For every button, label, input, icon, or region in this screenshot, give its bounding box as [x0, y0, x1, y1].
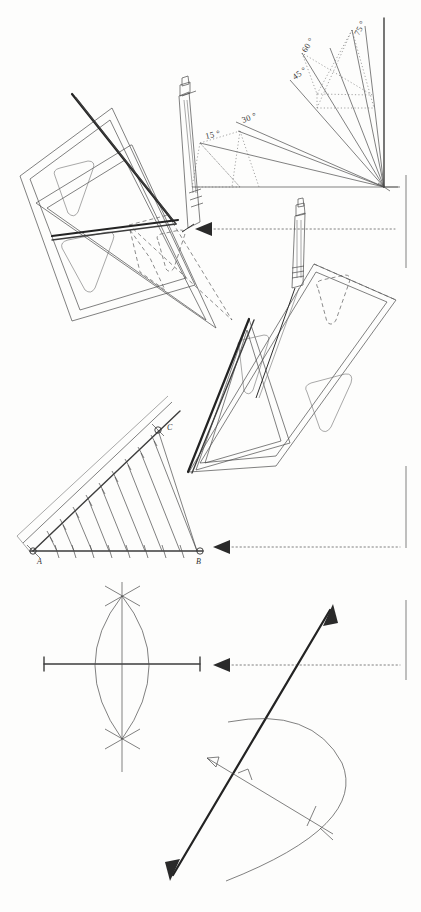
ruler-left-bracket: [17, 536, 31, 553]
arc-right: [122, 596, 149, 739]
setsquare-mid-a-inner: [205, 330, 281, 463]
setsquare-ghost-dashed: [129, 215, 232, 320]
arc-left: [95, 596, 122, 739]
label-point-A: A: [36, 557, 42, 566]
drawn-line-top-1b: [76, 98, 176, 224]
setsquare-mid-b-cutout-dashed: [317, 275, 350, 324]
pencil-top: [179, 76, 203, 232]
set-squares-panel-middle: [188, 198, 396, 473]
equal-division-panel: A B C: [17, 396, 203, 566]
fan-ray-60: [302, 53, 384, 187]
drawn-line-mid-1: [188, 319, 249, 472]
pointer-arrow-2: [213, 540, 400, 554]
pointer-arrow-3: [213, 658, 400, 672]
pencil-middle: [256, 198, 305, 398]
fan-ray-15b: [238, 131, 384, 187]
perpendicular-through-point-panel: [165, 604, 346, 881]
angle-label-30: 30 °: [240, 110, 258, 125]
setsquare-lower-outline: [36, 145, 216, 328]
fan-ray-15: [200, 143, 384, 187]
oblique-main-line: [173, 610, 330, 875]
ruler-edge-upper: [17, 396, 168, 536]
technical-drawing-canvas: 15 ° 30 ° 45 ° 60 ° 75 °: [0, 0, 421, 912]
angle-label-45: 45 °: [290, 65, 308, 82]
setsquare-mid-b-inner: [200, 272, 387, 463]
construction-arc: [226, 718, 346, 881]
fan-ray-45: [290, 80, 384, 187]
set-squares-panel-top: [20, 76, 232, 328]
graduated-ray: [33, 411, 180, 551]
perpendicular-bisector-panel: [44, 582, 200, 772]
label-point-C: C: [167, 423, 173, 432]
angle-label-60: 60 °: [299, 36, 316, 54]
drawn-line-top-2b: [52, 224, 176, 240]
label-point-B: B: [196, 557, 201, 566]
angle-label-75: 75 °: [352, 19, 368, 37]
drawing-sheet: 15 ° 30 ° 45 ° 60 ° 75 °: [0, 0, 421, 912]
fan-dotted-triangle-15: [192, 131, 259, 187]
point-C-cross: [152, 424, 164, 436]
drawn-line-mid-1b: [192, 320, 254, 473]
fan-ray-30: [236, 122, 384, 187]
angle-fan-panel: 15 ° 30 ° 45 ° 60 ° 75 °: [192, 18, 400, 191]
perpendicular-line: [207, 758, 333, 834]
line-CB: [158, 430, 197, 551]
parallel-division-lines: [50, 441, 197, 551]
angle-label-15: 15 °: [204, 128, 221, 141]
